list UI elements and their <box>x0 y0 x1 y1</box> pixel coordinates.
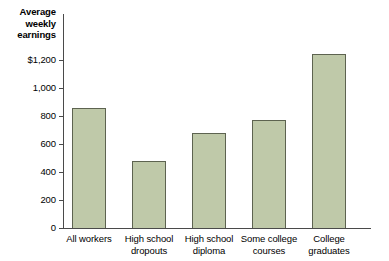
x-label-some-college-courses-line-2: courses <box>234 245 304 257</box>
x-label-high-school-dropouts-line-1: High school <box>115 233 183 245</box>
y-tick-label-600: 600 <box>0 139 56 149</box>
y-axis-title-line-2: weekly <box>0 18 56 30</box>
x-label-some-college-courses: Some college courses <box>234 233 304 256</box>
y-tick-label-0: 0 <box>0 223 56 233</box>
y-tick-mark-1000 <box>59 88 64 89</box>
x-label-high-school-diploma-line-1: High school <box>175 233 243 245</box>
x-label-high-school-dropouts-line-2: dropouts <box>115 245 183 257</box>
y-axis-title-line-1: Average <box>0 6 56 18</box>
y-tick-mark-200 <box>59 200 64 201</box>
y-tick-label-1200: $1,200 <box>0 55 56 65</box>
x-axis-line <box>63 228 371 229</box>
x-label-college-graduates-line-2: graduates <box>295 245 363 257</box>
y-axis-title-line-3: earnings <box>0 29 56 41</box>
y-tick-mark-1200 <box>59 60 64 61</box>
y-tick-label-200: 200 <box>0 195 56 205</box>
y-tick-label-800: 800 <box>0 111 56 121</box>
bar-high-school-dropouts <box>132 161 166 228</box>
y-axis-line <box>63 14 64 228</box>
bar-college-graduates <box>312 54 346 228</box>
y-tick-label-1000: 1,000 <box>0 83 56 93</box>
x-label-high-school-dropouts: High school dropouts <box>115 233 183 256</box>
y-tick-mark-800 <box>59 116 64 117</box>
x-label-some-college-courses-line-1: Some college <box>234 233 304 245</box>
bar-all-workers <box>72 108 106 228</box>
y-tick-mark-0 <box>59 228 64 229</box>
y-axis-title: Average weekly earnings <box>0 6 56 41</box>
x-label-high-school-diploma: High school diploma <box>175 233 243 256</box>
x-label-college-graduates-line-1: College <box>295 233 363 245</box>
y-tick-label-400: 400 <box>0 167 56 177</box>
x-label-high-school-diploma-line-2: diploma <box>175 245 243 257</box>
bar-high-school-diploma <box>192 133 226 228</box>
y-tick-mark-600 <box>59 144 64 145</box>
bar-some-college-courses <box>252 120 286 228</box>
x-label-college-graduates: College graduates <box>295 233 363 256</box>
x-label-all-workers-line-1: All workers <box>59 233 119 245</box>
y-tick-mark-400 <box>59 172 64 173</box>
x-label-all-workers: All workers <box>59 233 119 245</box>
bar-chart: Average weekly earnings $1,200 1,000 800… <box>0 0 389 261</box>
